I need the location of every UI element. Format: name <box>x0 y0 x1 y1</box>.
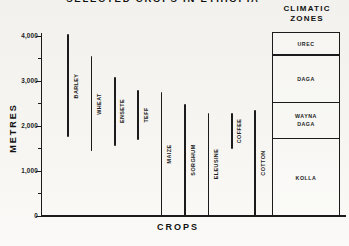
y-tick-minor <box>38 58 42 59</box>
crop-bar-teff <box>137 90 139 140</box>
crop-bar-label-sorghum: SORGHUM <box>189 144 195 175</box>
chart-title: SELECTED CROPS IN ETHIOPIA <box>66 0 260 4</box>
crop-bar-barley <box>67 34 69 138</box>
crop-bar-sorghum <box>184 104 186 217</box>
crop-bar-cotton <box>254 110 256 216</box>
chart-canvas: SELECTED CROPS IN ETHIOPIA METRES 01,000… <box>0 0 349 246</box>
zone-divider <box>273 54 339 55</box>
crop-bar-eleusine <box>208 113 210 217</box>
y-tick-label: 3,000 <box>20 78 38 84</box>
crop-bar-label-maize: MAIZE <box>166 145 172 164</box>
zone-label-wayna-daga: DAGA <box>297 121 315 127</box>
x-axis-label: CROPS <box>157 222 199 232</box>
y-tick-minor <box>38 103 42 104</box>
y-tick-label: 0 <box>20 213 38 219</box>
y-tick-minor <box>38 193 42 194</box>
crop-bar-maize <box>161 92 163 216</box>
crop-bar-label-eleusine: ELEUSINE <box>213 149 219 179</box>
y-axis-label: METRES <box>8 103 18 153</box>
y-axis-line <box>41 33 42 216</box>
zone-label-urec: UREC <box>297 41 314 47</box>
y-tick-label: 1,000 <box>20 168 38 174</box>
climatic-zones-header-line1: CLIMATIC <box>283 4 330 13</box>
crop-bar-label-ensete: ENSETE <box>119 99 125 123</box>
climatic-zones-box: URECDAGAWAYNADAGAKOLLA <box>272 32 340 217</box>
zone-label-wayna-daga: WAYNA <box>295 113 317 119</box>
zone-label-kolla: KOLLA <box>296 175 317 181</box>
crop-bar-wheat <box>91 56 93 151</box>
crop-bar-ensete <box>114 77 116 147</box>
crop-bar-coffee <box>231 113 233 149</box>
crop-bar-label-coffee: COFFEE <box>236 118 242 143</box>
y-tick-minor <box>38 148 42 149</box>
zone-divider <box>273 102 339 103</box>
zone-divider <box>273 138 339 139</box>
crop-bar-label-teff: TEFF <box>143 107 149 122</box>
crop-bar-label-wheat: WHEAT <box>96 93 102 115</box>
crop-bar-label-cotton: COTTON <box>260 150 266 175</box>
zone-label-daga: DAGA <box>297 76 315 82</box>
climatic-zones-header-line2: ZONES <box>290 14 324 23</box>
y-tick-label: 4,000 <box>20 33 38 39</box>
crop-bar-label-barley: BARLEY <box>72 73 78 98</box>
y-tick-label: 2,000 <box>20 123 38 129</box>
